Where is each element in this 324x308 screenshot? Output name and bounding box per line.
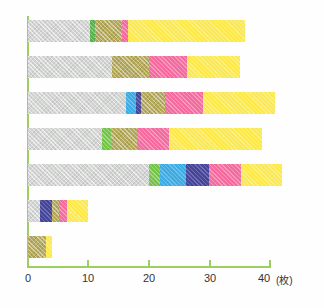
bar-segment-yellow bbox=[187, 56, 240, 78]
bar-row bbox=[28, 56, 240, 78]
x-tick-label-20: 20 bbox=[129, 272, 169, 284]
bar-segment-yellow bbox=[46, 236, 52, 258]
bar-segment-gray bbox=[28, 164, 149, 186]
bar-segment-olive bbox=[28, 236, 46, 258]
bar-segment-yellow bbox=[128, 20, 245, 42]
bar-segment-blue bbox=[160, 164, 186, 186]
stacked-bar-chart: 0 10 20 30 40 (枚) bbox=[0, 0, 324, 308]
bar-row bbox=[28, 20, 245, 42]
bar-segment-pink bbox=[59, 200, 66, 222]
bar-segment-olive bbox=[141, 92, 166, 114]
bar-segment-green bbox=[149, 164, 160, 186]
bar-segment-pink bbox=[209, 164, 241, 186]
x-tick-mark-30 bbox=[209, 260, 211, 267]
bar-segment-olive bbox=[111, 128, 137, 150]
bar-row bbox=[28, 128, 262, 150]
bar-segment-olive bbox=[95, 20, 123, 42]
x-tick-label-10: 10 bbox=[68, 272, 108, 284]
bar-segment-blue bbox=[126, 92, 136, 114]
bar-segment-gray bbox=[28, 128, 102, 150]
x-tick-mark-20 bbox=[148, 260, 150, 267]
bar-segment-navy bbox=[186, 164, 209, 186]
x-tick-mark-10 bbox=[87, 260, 89, 267]
bar-segment-yellow bbox=[67, 200, 88, 222]
bar-segment-pink bbox=[137, 128, 169, 150]
bar-row bbox=[28, 200, 88, 222]
bar-segment-pink bbox=[165, 92, 203, 114]
bar-segment-pink bbox=[149, 56, 187, 78]
bar-segment-gray bbox=[28, 56, 112, 78]
bar-segment-navy bbox=[40, 200, 52, 222]
x-tick-mark-0 bbox=[27, 260, 29, 267]
bar-segment-gray bbox=[28, 200, 40, 222]
bar-segment-yellow bbox=[169, 128, 262, 150]
bar-segment-gray bbox=[28, 20, 90, 42]
bar-row bbox=[28, 236, 52, 258]
x-tick-label-30: 30 bbox=[190, 272, 230, 284]
x-tick-label-0: 0 bbox=[8, 272, 48, 284]
bar-segment-olive bbox=[52, 200, 59, 222]
bar-segment-olive bbox=[112, 56, 149, 78]
bar-row bbox=[28, 92, 275, 114]
bar-segment-yellow bbox=[241, 164, 282, 186]
bar-segment-green bbox=[102, 128, 111, 150]
x-axis-unit-label: (枚) bbox=[276, 272, 293, 287]
x-tick-mark-40 bbox=[269, 260, 271, 267]
bar-segment-yellow bbox=[203, 92, 275, 114]
bar-row bbox=[28, 164, 282, 186]
bar-segment-gray bbox=[28, 92, 126, 114]
